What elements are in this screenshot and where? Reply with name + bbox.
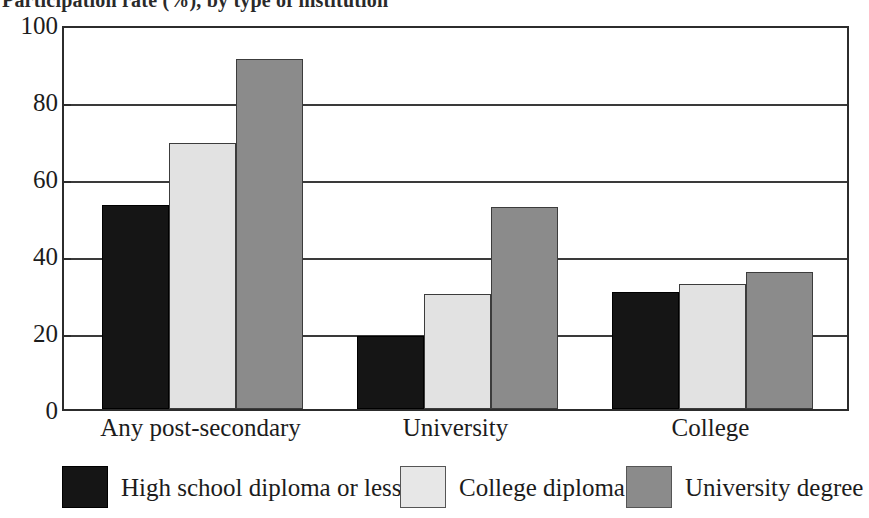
- chart-title-clipped: Participation rate (%), by type of insti…: [0, 0, 869, 13]
- x-axis-tick-label: Any post-secondary: [70, 413, 331, 443]
- chart-legend: High school diploma or lessCollege diplo…: [0, 462, 869, 518]
- chart-title-text: Participation rate (%), by type of insti…: [2, 0, 388, 12]
- x-axis-tick-label: University: [325, 413, 586, 443]
- legend-item: High school diploma or less: [62, 464, 402, 510]
- bar-series-group: [64, 28, 847, 409]
- legend-item-label: College diploma: [459, 475, 625, 500]
- y-axis-tick-label: 100: [6, 13, 58, 38]
- bar: [236, 59, 303, 409]
- y-axis-tick-label: 0: [6, 398, 58, 423]
- y-axis-tick-label: 20: [6, 321, 58, 346]
- bar: [102, 205, 169, 409]
- x-axis-tick-label: College: [580, 413, 841, 443]
- bar: [746, 272, 813, 409]
- y-axis-tick-label: 40: [6, 244, 58, 269]
- x-axis-labels: Any post-secondaryUniversityCollege: [62, 413, 849, 449]
- bar: [679, 284, 746, 409]
- y-axis-tick-label: 80: [6, 90, 58, 115]
- legend-item: College diploma: [400, 464, 625, 510]
- legend-item-label: High school diploma or less: [121, 475, 402, 500]
- black-swatch: [62, 466, 108, 508]
- bar-chart: 100806040200 Any post-secondaryUniversit…: [0, 13, 869, 458]
- bar: [491, 207, 558, 409]
- y-axis: 100806040200: [0, 13, 58, 458]
- bar: [169, 143, 236, 409]
- dark-gray-swatch: [626, 466, 672, 508]
- bar: [357, 336, 424, 409]
- light-gray-swatch: [400, 466, 446, 508]
- legend-item-label: University degree: [685, 475, 863, 500]
- bar: [424, 294, 491, 410]
- plot-area: [62, 26, 849, 411]
- y-axis-tick-label: 60: [6, 167, 58, 192]
- bar: [612, 292, 679, 409]
- legend-item: University degree: [626, 464, 863, 510]
